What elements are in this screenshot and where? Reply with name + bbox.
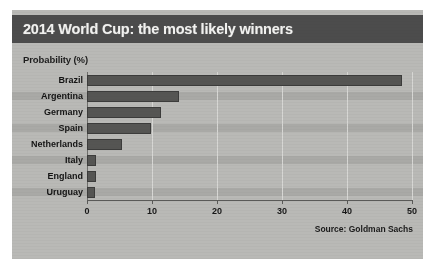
x-tick-label-50: 50 [407, 206, 417, 216]
chart-figure: 2014 World Cup: the most likely winners … [12, 10, 423, 259]
gridline [347, 72, 348, 204]
category-label-argentina: Argentina [41, 88, 83, 104]
bar-row: Brazil [87, 72, 402, 88]
gridline [217, 72, 218, 204]
plot-area: BrazilArgentinaGermanySpainNetherlandsIt… [87, 72, 412, 200]
bar-spain [87, 123, 151, 134]
x-tick-mark [412, 200, 413, 204]
x-tick-mark [217, 200, 218, 204]
x-tick-label-30: 30 [277, 206, 287, 216]
bar-row: Italy [87, 152, 96, 168]
category-label-germany: Germany [44, 104, 83, 120]
x-tick-mark [282, 200, 283, 204]
x-axis-line [87, 200, 412, 201]
bar-row: England [87, 168, 96, 184]
gridline [282, 72, 283, 204]
bar-england [87, 171, 96, 182]
x-tick-mark [87, 200, 88, 204]
category-label-england: England [48, 168, 84, 184]
category-label-italy: Italy [65, 152, 83, 168]
x-tick-label-10: 10 [147, 206, 157, 216]
category-label-netherlands: Netherlands [31, 136, 83, 152]
bar-netherlands [87, 139, 122, 150]
chart-title-bar: 2014 World Cup: the most likely winners [12, 15, 423, 43]
page-title: 2014 World Cup: the most likely winners [12, 21, 293, 37]
category-label-uruguay: Uruguay [46, 184, 83, 200]
bar-italy [87, 155, 96, 166]
bar-row: Uruguay [87, 184, 95, 200]
bar-row: Argentina [87, 88, 179, 104]
bar-row: Spain [87, 120, 151, 136]
bar-row: Netherlands [87, 136, 122, 152]
source-attribution: Source: Goldman Sachs [315, 224, 413, 234]
axis-title-probability: Probability (%) [23, 54, 88, 65]
bar-argentina [87, 91, 179, 102]
bar-row: Germany [87, 104, 161, 120]
gridline [412, 72, 413, 204]
x-tick-label-20: 20 [212, 206, 222, 216]
bar-brazil [87, 75, 402, 86]
bar-germany [87, 107, 161, 118]
category-label-brazil: Brazil [58, 72, 83, 88]
x-tick-mark [347, 200, 348, 204]
bar-uruguay [87, 187, 95, 198]
x-tick-label-40: 40 [342, 206, 352, 216]
x-tick-label-0: 0 [84, 206, 89, 216]
category-label-spain: Spain [58, 120, 83, 136]
x-tick-mark [152, 200, 153, 204]
